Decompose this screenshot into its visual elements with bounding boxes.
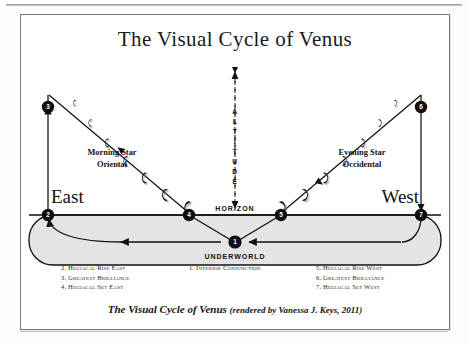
node-6[interactable]: 6 (415, 101, 427, 113)
underworld-label: UNDERWORLD (204, 253, 265, 260)
svg-text:1: 1 (233, 238, 237, 245)
legend-column-center: 1. Interior Conjunction (189, 263, 261, 273)
node-2[interactable]: 2 (42, 209, 54, 221)
figure-legend: 2. Heliacal Rise East 3. Greatest Brilli… (21, 263, 449, 299)
svg-text:Morning Star: Morning Star (87, 148, 136, 157)
svg-text:A: A (232, 108, 237, 115)
svg-text:I: I (234, 138, 236, 145)
svg-text:L: L (233, 118, 238, 125)
legend-column-left: 2. Heliacal Rise East 3. Greatest Brilli… (61, 263, 129, 292)
page-top-rule (6, 4, 462, 6)
node-4[interactable]: 4 (183, 209, 195, 221)
svg-text:Evening Star: Evening Star (339, 148, 386, 157)
svg-text:2: 2 (46, 211, 50, 218)
legend-item: 6. Greatest Brilliance (316, 273, 384, 283)
svg-text:D: D (232, 168, 237, 175)
crescent-group-west (279, 100, 397, 215)
svg-text:U: U (232, 158, 237, 165)
legend-item: 3. Greatest Brilliance (61, 273, 129, 283)
svg-text:5: 5 (279, 211, 283, 218)
node-7[interactable]: 7 (415, 209, 427, 221)
svg-text:E: E (233, 178, 238, 185)
legend-item: 4. Heliacal Set East (61, 282, 129, 292)
morning-star-label: Morning Star Oriental (87, 148, 136, 169)
legend-item: 1. Interior Conjunction (189, 263, 261, 273)
legend-item: 2. Heliacal Rise East (61, 263, 129, 273)
svg-text:3: 3 (46, 103, 50, 110)
crescent-group-east (73, 100, 191, 215)
node-5[interactable]: 5 (275, 209, 287, 221)
svg-text:Oriental: Oriental (97, 160, 128, 169)
svg-text:6: 6 (419, 103, 423, 110)
legend-item: 7. Heliacal Set West (316, 282, 384, 292)
venus-cycle-diagram: A L T I T U D E (21, 55, 449, 277)
figure-box: The Visual Cycle of Venus (20, 14, 450, 330)
svg-text:4: 4 (187, 211, 191, 218)
svg-text:7: 7 (419, 211, 423, 218)
svg-text:T: T (233, 128, 238, 135)
legend-item: 5. Heliacal Rise West (316, 263, 384, 273)
svg-text:Occidental: Occidental (343, 160, 382, 169)
node-3[interactable]: 3 (42, 101, 54, 113)
page-bottom-rule (20, 331, 448, 332)
legend-column-right: 5. Heliacal Rise West 6. Greatest Brilli… (316, 263, 384, 292)
node-1[interactable]: 1 (228, 235, 241, 248)
svg-text:T: T (233, 148, 238, 155)
figure-page: The Visual Cycle of Venus (0, 0, 468, 346)
east-label: East (51, 186, 84, 207)
caption-credit: (rendered by Vanessa J. Keys, 2011) (230, 305, 363, 315)
horizon-label: HORIZON (215, 205, 254, 212)
caption-title: The Visual Cycle of Venus (108, 303, 227, 315)
figure-title: The Visual Cycle of Venus (21, 27, 449, 52)
figure-caption: The Visual Cycle of Venus (rendered by V… (21, 303, 449, 315)
west-label: West (381, 186, 419, 207)
